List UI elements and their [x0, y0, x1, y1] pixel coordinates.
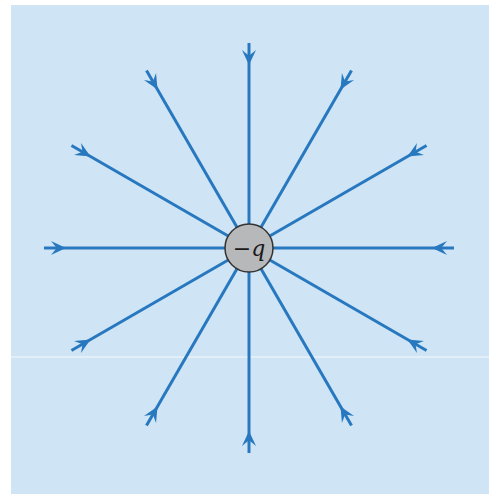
field-line: [270, 146, 427, 237]
field-line: [270, 260, 427, 351]
field-line: [261, 70, 352, 227]
charge-label: −q: [233, 236, 266, 261]
negative-charge: −q: [225, 224, 273, 272]
field-line: [71, 146, 228, 237]
field-line: [261, 269, 352, 426]
field-line: [147, 269, 238, 426]
field-line: [71, 260, 228, 351]
field-line: [147, 70, 238, 227]
field-line-diagram: −q: [0, 0, 496, 504]
